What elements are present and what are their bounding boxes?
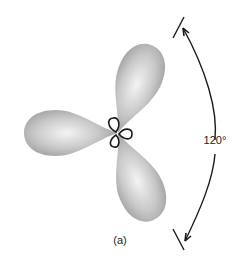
top-tick-line xyxy=(173,17,184,38)
lobe-upper-right xyxy=(97,37,174,141)
minor-lobe-lower xyxy=(110,135,119,147)
minor-lobe-upper xyxy=(109,118,119,132)
lobe-left xyxy=(24,110,118,156)
orbital-diagram: 120° (a) xyxy=(0,0,236,265)
bottom-tick-line xyxy=(173,229,184,250)
angle-label: 120° xyxy=(204,134,227,146)
panel-label: (a) xyxy=(113,234,126,246)
lobe-lower-right xyxy=(97,124,175,228)
